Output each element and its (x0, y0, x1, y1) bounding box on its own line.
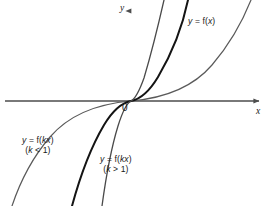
k-gt-1-close: ) (129, 154, 132, 164)
curve-base-f-of-x (72, 0, 188, 206)
curve-label-f-of-x: y = f(x) (188, 17, 215, 27)
curve-label-f-of-x-line1: y = f(x) (188, 17, 215, 27)
k-lt-1-arg: kx (42, 135, 51, 145)
curve-k-greater-than-1 (102, 0, 164, 206)
k-gt-1-arg: kx (120, 154, 129, 164)
y-axis-label: y (120, 3, 124, 14)
k-lt-1-eq: = f( (26, 135, 42, 145)
k-lt-1-close: ) (51, 135, 54, 145)
x-axis-label: x (256, 106, 260, 117)
plot-canvas (0, 0, 270, 206)
function-transformation-figure: y x 0 y = f(x) y = f(kx) (k < 1) y = f(k… (0, 0, 270, 206)
fx-close: ) (212, 16, 215, 26)
origin-label: 0 (122, 102, 128, 114)
curve-label-k-less-than-1: y = f(kx) (k < 1) (22, 136, 54, 156)
k-gt-1-eq: = f( (104, 154, 120, 164)
fx-eq: = f( (192, 16, 208, 26)
curve-label-k-greater-than-1: y = f(kx) (k > 1) (100, 155, 132, 175)
k-gt-1-line2: (k > 1) (100, 165, 132, 175)
k-lt-1-rel: < 1) (33, 145, 51, 155)
k-gt-1-rel: > 1) (111, 164, 129, 174)
k-lt-1-line2: (k < 1) (22, 146, 54, 156)
